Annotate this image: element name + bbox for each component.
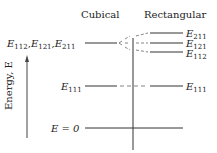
- diagram-lines: [0, 0, 217, 153]
- energy-level-diagram: Cubical Rectangular E112,E121,E211 E211 …: [0, 0, 217, 153]
- energy-axis-arrow: [25, 55, 29, 138]
